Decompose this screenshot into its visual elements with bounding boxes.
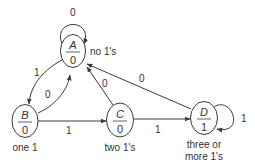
state-c: C 0 two 1's — [105, 103, 136, 153]
transition-c-a: 0 — [87, 67, 113, 105]
state-a-output: 0 — [70, 54, 76, 66]
state-b-output: 0 — [22, 124, 28, 136]
state-b-name: B — [21, 109, 28, 121]
state-d: D 1 three or more 1's — [185, 102, 223, 163]
state-d-name: D — [200, 106, 208, 118]
transition-c-d: 1 — [134, 119, 190, 135]
edge-label-c-a: 0 — [102, 78, 108, 89]
edge-label-a-a: 0 — [70, 7, 76, 18]
transition-b-a: 0 — [38, 75, 70, 113]
state-diagram: 0 1 0 1 0 1 0 1 A 0 no 1's — [0, 0, 255, 163]
state-b: B 0 one 1 — [12, 105, 38, 154]
state-d-caption-line1: three or — [187, 139, 222, 150]
transition-b-c: 1 — [38, 121, 106, 136]
transition-d-d: 1 — [214, 105, 247, 130]
edge-label-d-a: 0 — [139, 73, 145, 84]
edge-label-a-b: 1 — [34, 67, 40, 78]
state-d-output: 1 — [201, 121, 207, 133]
state-c-name: C — [116, 108, 124, 120]
state-d-caption-line2: more 1's — [185, 151, 223, 162]
edge-label-c-d: 1 — [155, 124, 161, 135]
state-c-output: 0 — [117, 123, 123, 135]
state-a-caption: no 1's — [90, 46, 116, 57]
edge-label-b-a: 0 — [45, 89, 51, 100]
state-a: A 0 no 1's — [61, 35, 117, 68]
state-b-caption: one 1 — [12, 142, 37, 153]
edge-label-d-d: 1 — [241, 113, 247, 124]
state-c-caption: two 1's — [105, 142, 136, 153]
edge-label-b-c: 1 — [66, 125, 72, 136]
state-a-name: A — [68, 39, 76, 51]
